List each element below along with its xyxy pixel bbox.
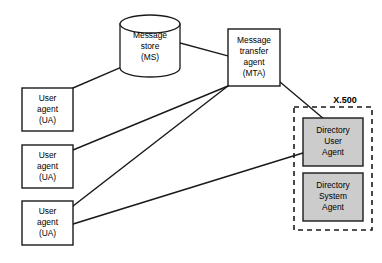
directory-system-agent-label-line1: Directory — [316, 180, 350, 190]
x500-group-label: X.500 — [333, 95, 357, 105]
user-agent-1-label-line1: User — [39, 93, 57, 103]
node-user-agent-3: User agent (UA) — [22, 201, 73, 245]
node-directory-user-agent: Directory User Agent — [303, 118, 363, 166]
link-ua2-to-mta — [73, 86, 228, 150]
node-user-agent-2: User agent (UA) — [22, 145, 73, 188]
user-agent-3-label-line1: User — [39, 206, 57, 216]
message-store-label-line3: (MS) — [141, 52, 159, 62]
link-ua3-to-directory-user-agent — [73, 153, 303, 224]
directory-user-agent-label-line1: Directory — [316, 125, 350, 135]
mta-label-line3: agent — [244, 57, 266, 67]
user-agent-1-label-line2: agent — [37, 104, 59, 114]
link-ua1-to-message-store — [73, 67, 122, 88]
user-agent-3-label-line3: (UA) — [39, 228, 56, 238]
directory-user-agent-label-line3: Agent — [322, 147, 345, 157]
node-mta: Message transfer agent (MTA) — [228, 29, 280, 86]
diagram-canvas: X.500 Message store (MS) Message transfe… — [0, 0, 382, 263]
directory-user-agent-label-line2: User — [324, 136, 342, 146]
directory-system-agent-label-line3: Agent — [322, 202, 345, 212]
user-agent-2-label-line1: User — [39, 150, 57, 160]
link-message-store-to-mta — [180, 43, 228, 56]
directory-system-agent-label-line2: System — [319, 191, 347, 201]
mta-label-line4: (MTA) — [243, 68, 266, 78]
user-agent-3-label-line2: agent — [37, 217, 59, 227]
connection-lines — [73, 43, 324, 224]
link-mta-to-directory-user-agent — [280, 82, 324, 119]
node-user-agent-1: User agent (UA) — [22, 88, 73, 131]
mta-label-line2: transfer — [240, 46, 269, 56]
diagram-svg: X.500 Message store (MS) Message transfe… — [0, 0, 382, 263]
user-agent-2-label-line2: agent — [37, 161, 59, 171]
user-agent-1-label-line3: (UA) — [39, 115, 56, 125]
node-directory-system-agent: Directory System Agent — [303, 173, 363, 221]
user-agent-2-label-line3: (UA) — [39, 172, 56, 182]
link-ua3-to-mta — [73, 86, 228, 206]
node-message-store: Message store (MS) — [120, 15, 180, 77]
message-store-label-line2: store — [141, 41, 160, 51]
message-store-label-line1: Message — [133, 30, 167, 40]
mta-label-line1: Message — [237, 35, 271, 45]
